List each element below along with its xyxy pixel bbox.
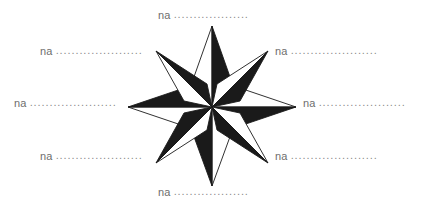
label-west: na ............................ <box>14 97 116 110</box>
label-southeast: na ............................ <box>275 150 377 163</box>
label-north-text: na <box>158 9 171 22</box>
label-northeast-text: na <box>275 45 288 58</box>
label-west-text: na <box>14 97 27 110</box>
label-southwest-text: na <box>40 150 53 163</box>
label-southeast-leader: ............................ <box>291 149 377 162</box>
label-southeast-text: na <box>275 150 288 163</box>
label-northeast: na ............................ <box>275 45 377 58</box>
label-north: na ............................ <box>158 9 248 22</box>
label-southwest-leader: ............................ <box>56 149 142 162</box>
label-south-leader: ............................ <box>174 185 248 198</box>
label-northeast-leader: ............................ <box>291 44 377 57</box>
label-south-text: na <box>158 186 171 199</box>
label-west-leader: ............................ <box>30 96 116 109</box>
label-east: na ............................ <box>303 97 405 110</box>
label-south: na ............................ <box>158 186 248 199</box>
compass-rose-figure: na ............................ na .....… <box>0 0 422 208</box>
label-northwest-text: na <box>40 45 53 58</box>
label-southwest: na ............................ <box>40 150 142 163</box>
label-northwest-leader: ............................ <box>56 44 142 57</box>
label-northwest: na ............................ <box>40 45 142 58</box>
label-north-leader: ............................ <box>174 8 248 21</box>
label-east-leader: ............................ <box>319 96 405 109</box>
label-east-text: na <box>303 97 316 110</box>
